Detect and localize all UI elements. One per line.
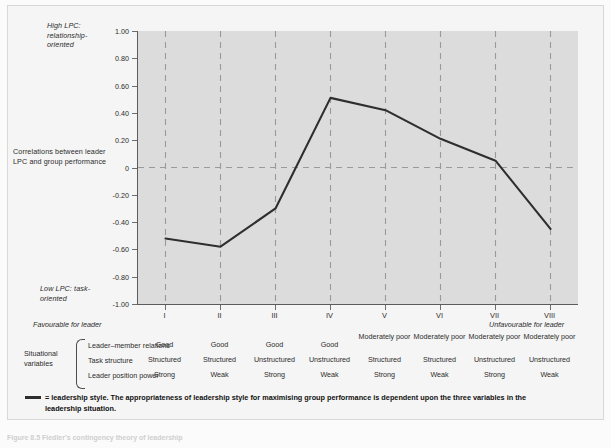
y-tick-label: -0.40 <box>95 218 129 227</box>
plot-area <box>137 31 578 305</box>
legend-line-1: = leadership style. The appropriateness … <box>25 392 585 404</box>
y-tick-label: -0.60 <box>95 245 129 254</box>
y-tick-label: -0.80 <box>95 272 129 281</box>
table-cell: Structured <box>413 356 467 365</box>
legend-text: = leadership style. The appropriateness … <box>45 393 526 402</box>
x-tick-mark <box>330 305 331 310</box>
x-tick-mark <box>165 305 166 310</box>
table-cell: Moderately poor <box>413 333 467 342</box>
table-cell: Unstructured <box>523 356 577 365</box>
table-cell: Strong <box>468 371 522 380</box>
unfavourable-for-leader-note: Unfavourable for leader <box>489 320 564 329</box>
table-cell: Good <box>303 341 357 350</box>
table-cell: Moderately poor <box>523 333 577 342</box>
x-tick-mark <box>385 305 386 310</box>
table-cell: Weak <box>193 371 247 380</box>
table-cell: Strong <box>138 371 192 380</box>
y-tick-label: 0.80 <box>95 54 129 63</box>
x-tick-mark <box>495 305 496 310</box>
table-cell: Weak <box>303 371 357 380</box>
table-cell: Strong <box>248 371 302 380</box>
x-tick-label: VI <box>420 311 460 320</box>
x-tick-label: V <box>365 311 405 320</box>
y-tick-label: -1.00 <box>95 300 129 309</box>
x-tick-mark <box>440 305 441 310</box>
y-tick-label: 0.40 <box>95 108 129 117</box>
table-cell: Strong <box>358 371 412 380</box>
y-tick-label: 1.00 <box>95 27 129 36</box>
legend-line-2: leadership situation. <box>45 404 116 413</box>
y-tick-label: 0.20 <box>95 136 129 145</box>
x-tick-label: VIII <box>530 311 570 320</box>
x-tick-label: III <box>255 311 295 320</box>
table-cell: Good <box>138 341 192 350</box>
figure-caption: Figure 8.5 Fiedler's contingency theory … <box>7 434 567 442</box>
y-tick-label: 0.60 <box>95 81 129 90</box>
y-tick-label: 0 <box>95 163 129 172</box>
table-cell: Weak <box>523 371 577 380</box>
table-cell: Structured <box>358 356 412 365</box>
table-cell: Unstructured <box>303 356 357 365</box>
x-tick-label: IV <box>310 311 350 320</box>
table-cell: Unstructured <box>468 356 522 365</box>
table-cell: Unstructured <box>248 356 302 365</box>
table-row-header: Task structure <box>88 356 133 365</box>
table-cell: Moderately poor <box>468 333 522 342</box>
brace-bracket <box>76 339 85 389</box>
scanned-page: High LPC: relationship- oriented Correla… <box>0 0 611 448</box>
favourable-for-leader-note: Favourable for leader <box>33 320 101 329</box>
table-cell: Weak <box>413 371 467 380</box>
x-tick-label: I <box>145 311 185 320</box>
table-cell: Good <box>248 341 302 350</box>
x-tick-mark <box>550 305 551 310</box>
leadership-style-line <box>166 98 551 247</box>
table-cell: Structured <box>138 356 192 365</box>
situational-variables-label: Situational variables <box>24 349 76 368</box>
x-tick-mark <box>275 305 276 310</box>
table-cell: Good <box>193 341 247 350</box>
x-tick-label: VII <box>475 311 515 320</box>
line-chart-svg <box>138 31 578 304</box>
table-cell: Structured <box>193 356 247 365</box>
y-tick-label: -0.20 <box>95 190 129 199</box>
legend-line-swatch <box>25 396 41 398</box>
x-tick-label: II <box>200 311 240 320</box>
x-tick-mark <box>220 305 221 310</box>
table-cell: Moderately poor <box>358 333 412 342</box>
